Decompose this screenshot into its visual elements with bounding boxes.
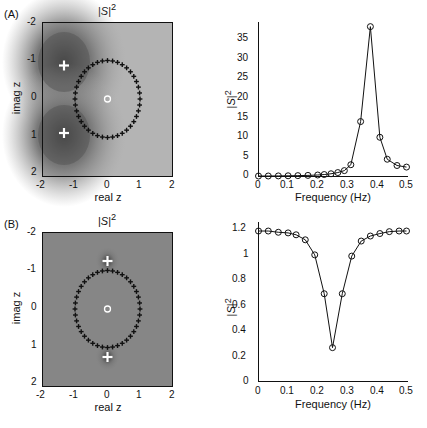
panel-a-xtick--1: -1 [69, 179, 78, 190]
panel-b-xtick--2: -2 [36, 389, 45, 400]
panel-b-xtick-0: 0 [104, 389, 110, 400]
panel-b-ytick--1: -1 [27, 263, 36, 274]
panel-b-ytick-2: 2 [31, 376, 37, 387]
panel-b-spec-ytick-0: 0 [243, 375, 249, 386]
panel-a-spec-xtick-0: 0 [255, 179, 261, 190]
panel-a-spec-ytick-30: 30 [237, 52, 248, 63]
panel-b-spec-xtick-0: 0 [255, 385, 261, 396]
panel-a-spec-xtick-03: 0.3 [340, 179, 354, 190]
panel-b-zplane-xlabel: real z [62, 401, 154, 413]
panel-b-ytick-0: 0 [31, 301, 37, 312]
panel-b-zplane-plot [42, 232, 173, 387]
panel-a-ytick-2: 2 [31, 166, 37, 177]
panel-a-xtick-0: 0 [104, 179, 110, 190]
panel-a-spec-xtick-01: 0.1 [280, 179, 294, 190]
panel-b-zplane-ylabel: imag z [10, 278, 22, 338]
panel-b-letter: (B) [4, 218, 19, 230]
panel-a-spectrum-xlabel: Frequency (Hz) [283, 191, 383, 203]
panel-a-ytick-0: 0 [31, 91, 37, 102]
panel-b-xtick-2: 2 [169, 389, 175, 400]
panel-a-ytick--1: -1 [27, 53, 36, 64]
panel-b-spec-ytick-02: 0.2 [232, 350, 246, 361]
panel-a-ytick--2: -2 [27, 16, 36, 27]
panel-a-spec-xtick-05: 0.5 [399, 179, 413, 190]
panel-b-spec-xtick-04: 0.4 [370, 385, 384, 396]
panel-b-xtick--1: -1 [69, 389, 78, 400]
panel-b-xtick-1: 1 [136, 389, 142, 400]
panel-a-spectrum-plot [258, 22, 408, 177]
panel-a-zplane-plot [42, 22, 173, 177]
panel-a-spec-ytick-15: 15 [237, 111, 248, 122]
panel-a-spec-ytick-10: 10 [237, 130, 248, 141]
panel-a-spectrum-ylabel: |S|2 [223, 69, 238, 129]
panel-a-spec-ytick-35: 35 [237, 32, 248, 43]
panel-b-spec-ytick-1: 1 [243, 248, 249, 259]
panel-a-spec-ytick-5: 5 [243, 150, 249, 161]
panel-a-xtick--2: -2 [36, 179, 45, 190]
panel-a-spec-xtick-02: 0.2 [310, 179, 324, 190]
panel-b-ytick-1: 1 [31, 339, 37, 350]
panel-b-spec-xtick-01: 0.1 [280, 385, 294, 396]
panel-b-spec-ytick-12: 1.2 [232, 222, 246, 233]
panel-b-spectrum-plot [258, 222, 408, 382]
panel-a-zplane-ylabel: imag z [10, 68, 22, 128]
panel-b-spec-xtick-05: 0.5 [399, 385, 413, 396]
panel-b-ytick--2: -2 [27, 226, 36, 237]
panel-b-spectrum-xlabel: Frequency (Hz) [283, 398, 383, 410]
panel-a-xtick-1: 1 [136, 179, 142, 190]
panel-b-spectrum-ylabel: |S|2 [223, 277, 238, 337]
panel-a-zplane-xlabel: real z [62, 191, 154, 203]
panel-b-spec-xtick-03: 0.3 [340, 385, 354, 396]
panel-a-spec-ytick-0: 0 [243, 169, 249, 180]
panel-a-xtick-2: 2 [169, 179, 175, 190]
panel-a-spec-xtick-04: 0.4 [370, 179, 384, 190]
panel-b-zplane-title: |S|2 [42, 212, 172, 227]
panel-a-ytick-1: 1 [31, 129, 37, 140]
panel-a-spec-ytick-20: 20 [237, 91, 248, 102]
panel-b-spec-xtick-02: 0.2 [310, 385, 324, 396]
panel-a-spec-ytick-25: 25 [237, 71, 248, 82]
